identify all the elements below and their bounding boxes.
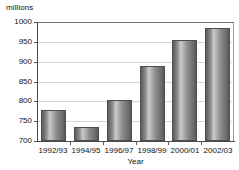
y-axis-tick-label: 700: [0, 137, 32, 145]
y-axis-tick-label: 900: [0, 58, 32, 66]
bar-slot: [70, 22, 103, 141]
bar: [74, 127, 99, 141]
x-axis-tick: [136, 141, 137, 145]
x-axis-tick: [168, 141, 169, 145]
y-axis-tick-label: 950: [0, 38, 32, 46]
y-axis-tick-label: 1000: [0, 18, 32, 26]
bar-slot: [201, 22, 234, 141]
bar-slot: [103, 22, 136, 141]
bar-slot: [136, 22, 169, 141]
bar: [41, 110, 66, 141]
y-axis-tick-label: 850: [0, 78, 32, 86]
y-axis-tick-label: 800: [0, 97, 32, 105]
bar-chart: millions 7007508008509009501000 1992/931…: [0, 0, 239, 170]
y-axis-tick-label: 750: [0, 117, 32, 125]
bar-slot: [37, 22, 70, 141]
y-axis-tick: [34, 141, 37, 142]
bar-slot: [168, 22, 201, 141]
bar: [140, 66, 165, 141]
bar: [172, 40, 197, 141]
x-axis-tick: [103, 141, 104, 145]
bar: [107, 100, 132, 141]
bars: [37, 22, 234, 141]
x-axis-tick: [70, 141, 71, 145]
bar: [205, 28, 230, 141]
x-axis-tick: [201, 141, 202, 145]
x-axis-title: Year: [37, 157, 234, 166]
y-axis-unit-label: millions: [6, 3, 33, 12]
x-axis-tick-label: 2002/03: [195, 146, 239, 155]
